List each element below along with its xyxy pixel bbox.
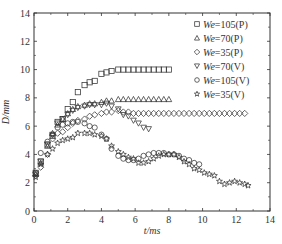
legend-label: We=105(P): [203, 19, 248, 31]
y-tick-label: 0: [25, 206, 30, 217]
x-tick-label: 8: [166, 214, 171, 225]
chart: 02468101214 02468101214 We=105(P)We=70(P…: [0, 0, 282, 244]
y-axis-label: D/mm: [0, 100, 11, 125]
legend-label: We=70(P): [203, 33, 243, 45]
legend-item: We=105(P): [195, 19, 248, 31]
legend-label: We=35(P): [203, 47, 243, 59]
y-tick-label: 6: [25, 121, 30, 132]
legend-label: We=35(V): [203, 89, 244, 101]
y-tick-label: 8: [25, 92, 30, 103]
x-tick-label: 2: [65, 214, 70, 225]
x-tick-label: 12: [231, 214, 241, 225]
legend-item: We=105(V): [195, 75, 250, 87]
x-tick-label: 4: [99, 214, 104, 225]
y-tick-label: 12: [20, 36, 30, 47]
x-tick-label: 14: [265, 214, 275, 225]
x-tick-label: 0: [32, 214, 37, 225]
y-tick-label: 14: [20, 8, 30, 19]
y-tick-label: 10: [20, 64, 30, 75]
legend-label: We=105(V): [203, 75, 249, 87]
y-tick-label: 4: [25, 149, 30, 160]
y-tick-label: 2: [25, 177, 30, 188]
legend-label: We=70(V): [203, 61, 244, 73]
x-tick-label: 10: [198, 214, 208, 225]
x-axis-label: t/ms: [144, 225, 161, 236]
x-tick-label: 6: [133, 214, 138, 225]
